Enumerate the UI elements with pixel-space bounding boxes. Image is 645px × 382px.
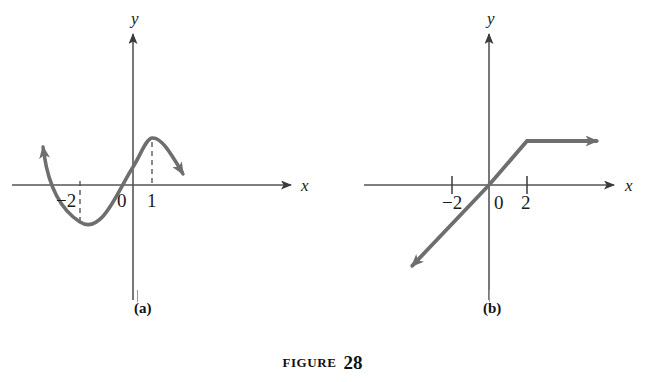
figure-graphics: x y −2 0 1 x y (0, 0, 645, 382)
panel-b-tick-label-minus2: −2 (442, 192, 462, 213)
panel-a: x y −2 0 1 (12, 9, 309, 300)
figure-caption-number: 28 (344, 352, 363, 373)
panel-b-caption: (b) (483, 300, 501, 317)
panel-a-tick-label-one: 1 (147, 190, 157, 211)
panel-b-tick-label-zero: 0 (494, 192, 504, 213)
panel-b-x-axis-label: x (624, 176, 633, 195)
figure-caption: FIGURE28 (0, 352, 645, 374)
panel-b: x y −2 0 2 (364, 9, 633, 300)
panel-a-caption: (a) (134, 300, 152, 317)
panel-a-tick-label-minus2: −2 (56, 190, 76, 211)
figure-caption-word: FIGURE (282, 355, 336, 370)
panel-b-arrow-lower-left (412, 260, 418, 266)
panel-a-tick-label-zero: 0 (117, 190, 127, 211)
panel-b-tick-label-two: 2 (521, 192, 531, 213)
panel-a-curve-arrow-left (43, 147, 44, 154)
panel-a-y-axis-label: y (129, 9, 139, 28)
panel-b-y-axis-label: y (485, 9, 495, 28)
figure-28: x y −2 0 1 x y (0, 0, 645, 382)
panel-a-x-axis-label: x (300, 176, 309, 195)
panel-a-curve (44, 138, 182, 225)
panel-b-graph (412, 141, 597, 266)
